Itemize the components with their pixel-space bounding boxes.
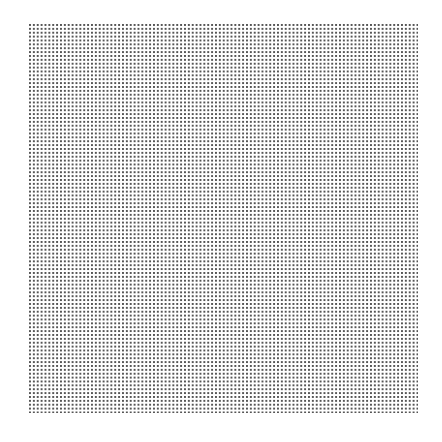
dot-grid-pattern (29, 24, 418, 413)
page (0, 0, 442, 442)
